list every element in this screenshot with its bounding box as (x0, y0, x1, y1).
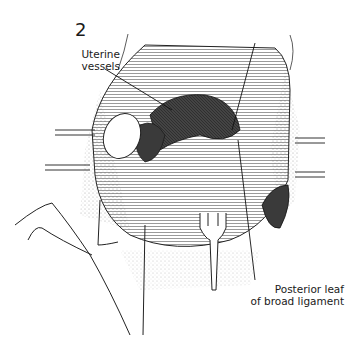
figure-number: 2 (75, 20, 86, 41)
label-line: Posterior leaf (232, 283, 344, 295)
label-line: of broad ligament (232, 295, 344, 307)
label-posterior-leaf: Posterior leaf of broad ligament (232, 283, 344, 307)
label-line: vessels (62, 60, 120, 72)
label-uterine-vessels: Uterine vessels (62, 48, 120, 72)
label-line: Uterine (62, 48, 120, 60)
